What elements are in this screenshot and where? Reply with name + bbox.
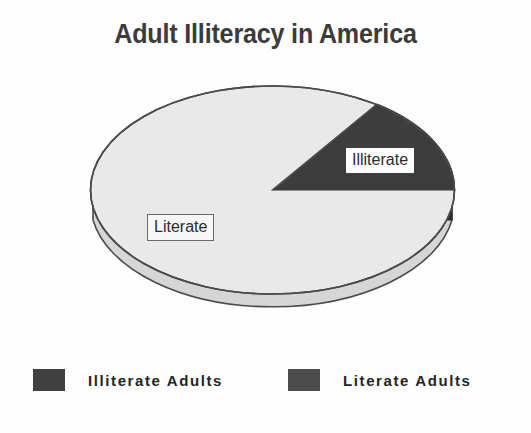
page-title: Adult Illiteracy in America bbox=[19, 20, 513, 50]
pie-chart-svg bbox=[80, 72, 465, 357]
legend-swatch-illiterate bbox=[33, 369, 65, 391]
legend-item-literate: Literate Adults bbox=[288, 364, 471, 396]
slice-label-literate: Literate bbox=[147, 214, 214, 241]
slice-label-illiterate: Illiterate bbox=[345, 147, 415, 174]
pie-chart-figure bbox=[80, 72, 465, 357]
pie-chart-page: Adult Illiteracy in America Illiterate L… bbox=[0, 0, 531, 433]
chart-legend: Illiterate Adults Literate Adults bbox=[0, 364, 531, 404]
legend-label-illiterate: Illiterate Adults bbox=[88, 372, 223, 389]
legend-item-illiterate: Illiterate Adults bbox=[33, 364, 223, 396]
legend-swatch-literate bbox=[288, 369, 320, 391]
legend-label-literate: Literate Adults bbox=[343, 372, 471, 389]
